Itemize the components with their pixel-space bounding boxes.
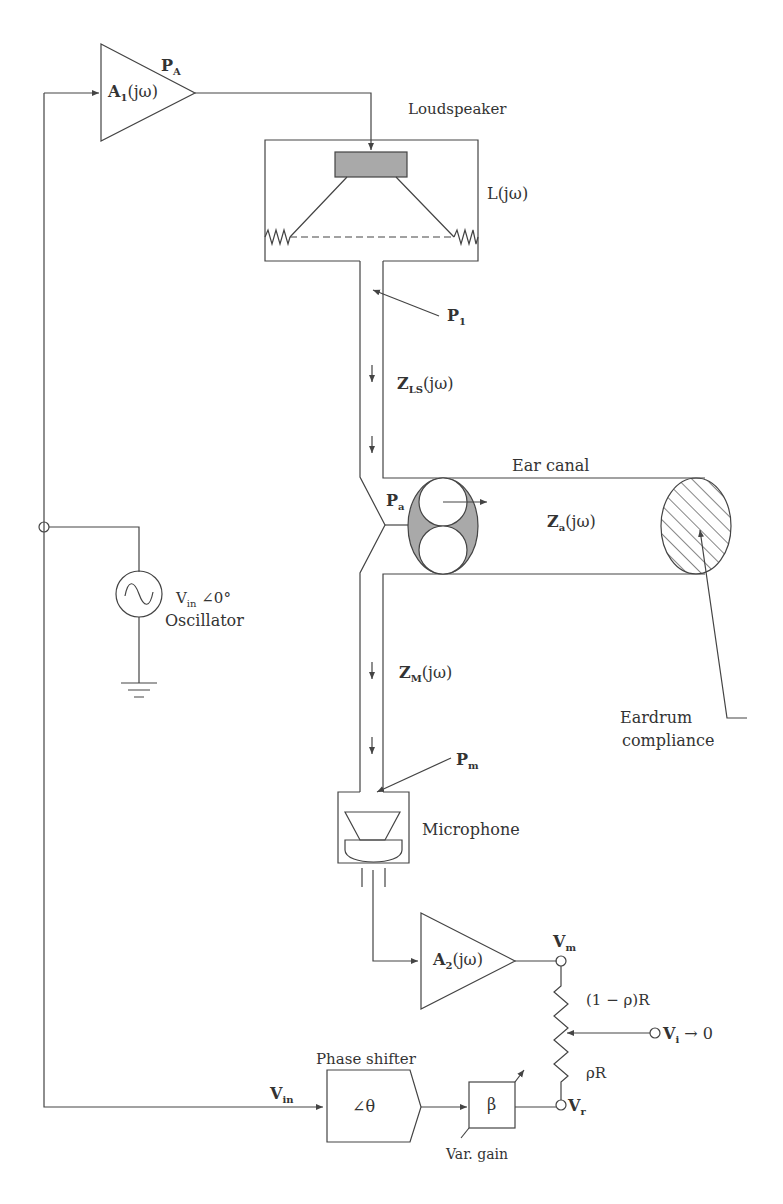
a1-label: A1(jω) xyxy=(108,84,158,103)
a1-output-wire xyxy=(195,93,371,150)
oscillator-label: Oscillator xyxy=(165,613,244,629)
diagram-canvas: A1(jω) PA Loudspeaker L(jω) P1 ZLS(jω) E… xyxy=(0,0,783,1204)
loudspeaker-transfer-label: L(jω) xyxy=(487,186,528,202)
phase-shifter xyxy=(327,1070,467,1142)
eardrum-label-line1: Eardrum xyxy=(620,710,692,726)
a2-label: A2(jω) xyxy=(433,952,483,971)
spring-right xyxy=(454,230,478,244)
tube-ls-right-wall xyxy=(383,261,705,478)
upper-resistance-label: (1 − ρ)R xyxy=(586,993,649,1008)
loudspeaker-label: Loudspeaker xyxy=(408,102,507,117)
earbud xyxy=(408,478,487,574)
potentiometer xyxy=(554,956,660,1110)
zls-label: ZLS(jω) xyxy=(397,376,453,395)
zm-label: ZM(jω) xyxy=(399,665,452,684)
za-label: Za(jω) xyxy=(547,514,596,533)
eardrum-label-line2: compliance xyxy=(622,733,715,749)
oscillator-voltage-label: Vin ∠0° xyxy=(176,591,231,609)
loudspeaker-magnet xyxy=(335,152,407,177)
pm-label: Pm xyxy=(456,752,479,771)
oscillator xyxy=(39,522,162,697)
ear-canal-label: Ear canal xyxy=(512,458,589,474)
microphone xyxy=(338,758,451,961)
spring-left xyxy=(265,230,290,244)
p1-label: P1 xyxy=(447,308,466,327)
vi-label: Vi → 0 xyxy=(663,1026,713,1045)
eardrum xyxy=(655,474,747,718)
loudspeaker-cone xyxy=(290,177,454,237)
phase-symbol: ∠θ xyxy=(352,1099,375,1115)
vm-label: Vm xyxy=(553,934,576,953)
gain-label: Var. gain xyxy=(446,1147,508,1161)
microphone-label: Microphone xyxy=(422,822,520,838)
gain-block xyxy=(461,1070,556,1138)
lower-resistance-label: ρR xyxy=(586,1066,606,1081)
vr-label: Vr xyxy=(568,1098,586,1117)
vin-label: Vin xyxy=(270,1086,294,1105)
gain-symbol: β xyxy=(487,1097,496,1113)
pa-label: PA xyxy=(161,58,181,77)
phase-shifter-label: Phase shifter xyxy=(316,1052,416,1067)
tube-ls-left-wall xyxy=(360,261,385,792)
pa-point-label: Pa xyxy=(386,493,405,512)
